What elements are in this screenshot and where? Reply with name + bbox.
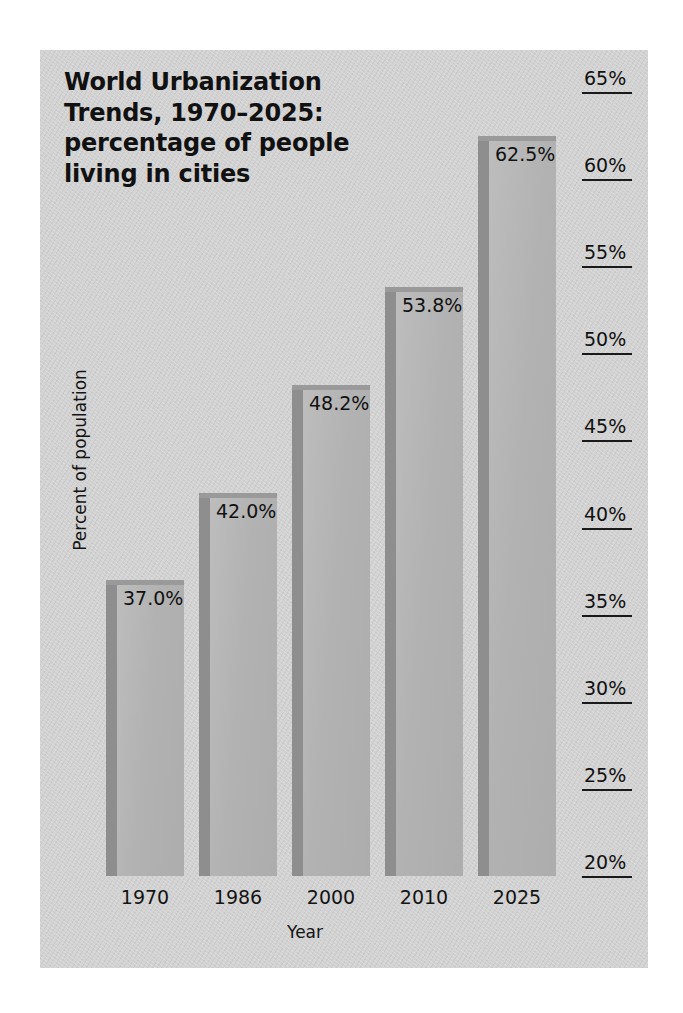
chart-title: World Urbanization Trends, 1970–2025: pe… (64, 67, 394, 190)
bar-top-face (292, 385, 370, 390)
y-axis-tick-label: 30% (584, 677, 626, 699)
x-axis-tick-label: 1986 (199, 886, 277, 908)
bar-side-face (199, 498, 210, 876)
bar-top-face (106, 580, 184, 585)
bar[interactable]: 48.2% (292, 385, 370, 876)
bar-front-face (303, 390, 370, 876)
bar-front-face (396, 292, 463, 876)
y-axis-tick-rule (582, 702, 632, 704)
y-axis-tick-label: 65% (584, 67, 626, 89)
bar[interactable]: 42.0% (199, 493, 277, 876)
y-axis-tick-label: 40% (584, 503, 626, 525)
y-axis-tick-rule (582, 789, 632, 791)
bar-front-face (210, 498, 277, 876)
x-axis-tick-label: 2025 (478, 886, 556, 908)
bar-value-label: 53.8% (402, 294, 462, 316)
bar-value-label: 48.2% (309, 392, 369, 414)
bar-value-label: 62.5% (495, 143, 555, 165)
x-axis-tick-label: 1970 (106, 886, 184, 908)
bar-front-face (117, 585, 184, 876)
bar-side-face (478, 141, 489, 876)
y-axis-tick-label: 35% (584, 590, 626, 612)
y-axis-tick-label: 20% (584, 851, 626, 873)
bar-side-face (292, 390, 303, 876)
y-axis-tick-rule (582, 876, 632, 878)
y-axis-tick-rule (582, 440, 632, 442)
y-axis-tick-label: 25% (584, 764, 626, 786)
bar-value-label: 42.0% (216, 500, 276, 522)
bar[interactable]: 37.0% (106, 580, 184, 876)
y-axis-tick-label: 60% (584, 154, 626, 176)
bar[interactable]: 62.5% (478, 136, 556, 876)
bar-value-label: 37.0% (123, 587, 183, 609)
bar-front-face (489, 141, 556, 876)
x-axis-tick-label: 2000 (292, 886, 370, 908)
y-axis-tick-rule (582, 266, 632, 268)
bar-side-face (385, 292, 396, 876)
bar[interactable]: 53.8% (385, 287, 463, 876)
y-axis-tick-label: 45% (584, 415, 626, 437)
y-axis-tick-rule (582, 179, 632, 181)
x-axis-tick-label: 2010 (385, 886, 463, 908)
bar-top-face (385, 287, 463, 292)
bar-top-face (478, 136, 556, 141)
y-axis-tick-rule (582, 615, 632, 617)
y-axis-tick-rule (582, 528, 632, 530)
bar-top-face (199, 493, 277, 498)
x-axis-title: Year (40, 922, 570, 942)
y-axis-tick-rule (582, 353, 632, 355)
bar-side-face (106, 585, 117, 876)
chart-panel: World Urbanization Trends, 1970–2025: pe… (40, 50, 648, 968)
y-axis-tick-label: 55% (584, 241, 626, 263)
y-axis-tick-label: 50% (584, 328, 626, 350)
y-axis-title: Percent of population (70, 360, 90, 560)
y-axis-tick-rule (582, 92, 632, 94)
